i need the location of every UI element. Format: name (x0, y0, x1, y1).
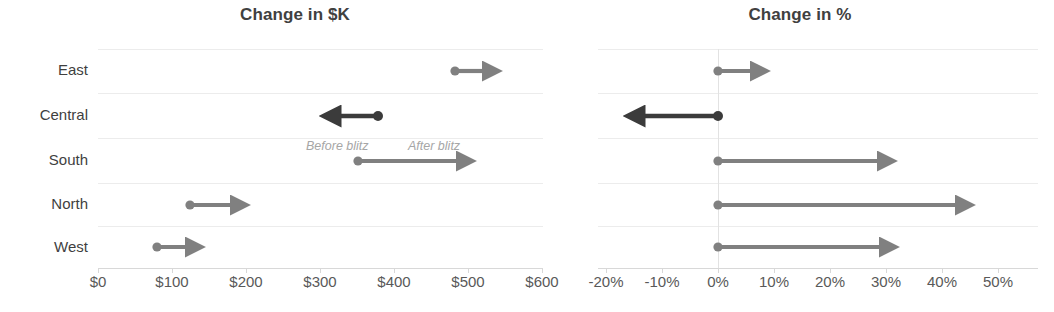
arrow-north (185, 200, 235, 209)
x-axis-line (598, 268, 1038, 269)
arrow-series-percent (598, 49, 1038, 268)
x-tick-label: -10% (644, 273, 679, 290)
arrow-central (336, 111, 383, 121)
arrow-south (353, 156, 461, 165)
annotation-before-blitz: Before blitz (306, 139, 369, 153)
arrow-east (713, 66, 755, 75)
y-label-west: West (54, 238, 88, 255)
x-tick-label: $400 (377, 273, 410, 290)
y-label-central: Central (40, 106, 88, 123)
x-tick-label: 0% (707, 273, 729, 290)
x-tick-label: -20% (588, 273, 623, 290)
x-tick-label: $500 (451, 273, 484, 290)
annotation-after-blitz: After blitz (408, 139, 460, 153)
slope-arrow-chart-pair: Change in $K East Central South North We… (0, 0, 1054, 312)
y-axis-category-labels: East Central South North West (0, 0, 88, 312)
y-label-south: South (49, 151, 88, 168)
x-tick-label: 10% (759, 273, 789, 290)
x-tick-label: 40% (927, 273, 957, 290)
arrow-north (713, 200, 960, 209)
x-tick-label: 50% (983, 273, 1013, 290)
x-tick-label: 20% (815, 273, 845, 290)
x-tick-label: $300 (303, 273, 336, 290)
x-tick-label: $200 (229, 273, 262, 290)
x-tick-label: $0 (90, 273, 107, 290)
x-tick-label: 30% (871, 273, 901, 290)
chart-title-dollars: Change in $K (30, 5, 560, 25)
arrow-central (640, 111, 723, 121)
plot-area-percent: -20% -10% 0% 10% 20% 30% 40% 50% (598, 49, 1038, 268)
arrow-west (152, 242, 190, 251)
x-tick-label: $100 (155, 273, 188, 290)
chart-title-percent: Change in % (530, 5, 1054, 25)
arrow-series-dollars (98, 49, 543, 268)
plot-area-dollars: Before blitz After blitz $0 $100 $200 $3… (98, 49, 543, 268)
y-label-north: North (51, 195, 88, 212)
arrow-south (713, 156, 882, 165)
y-label-east: East (58, 61, 88, 78)
arrow-west (713, 242, 884, 251)
arrow-east (450, 66, 487, 75)
